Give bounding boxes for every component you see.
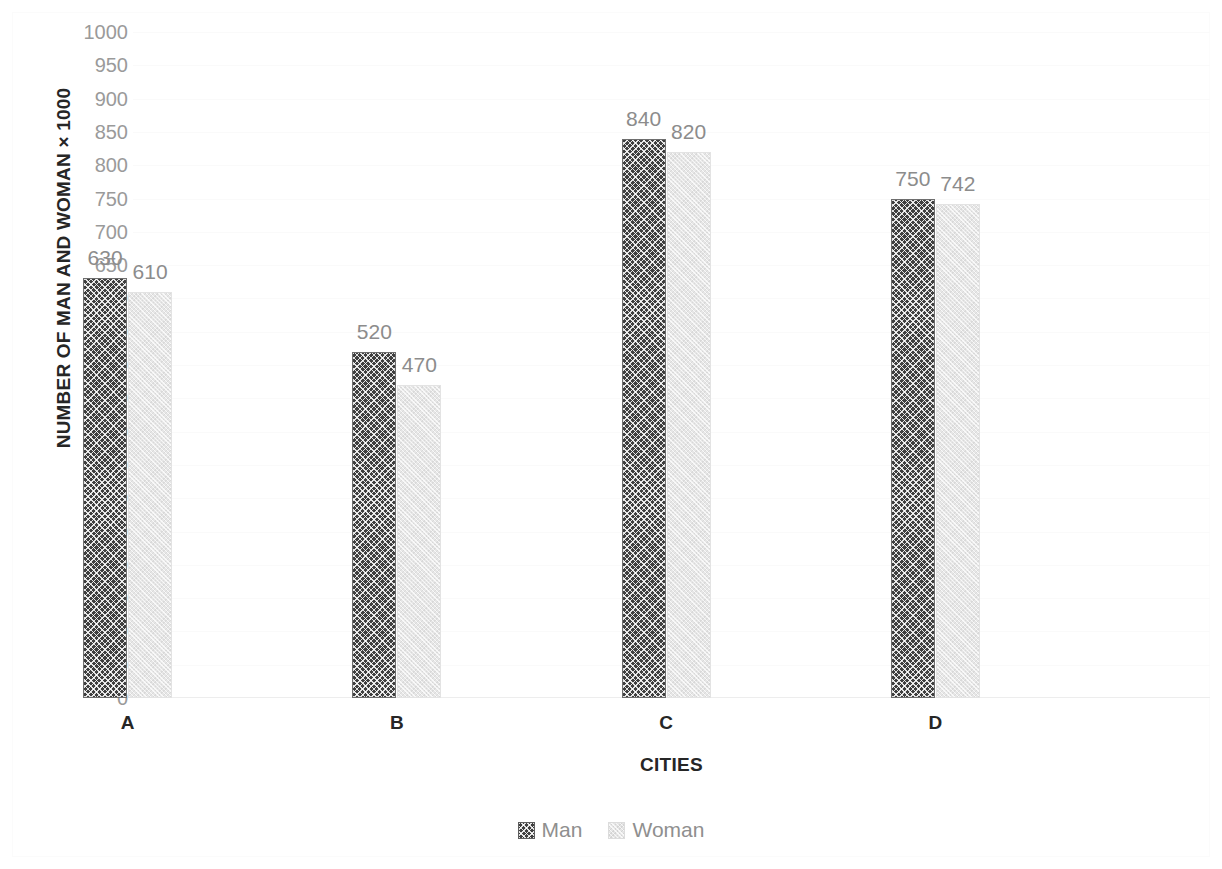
data-label-d-woman: 742 bbox=[913, 172, 1003, 196]
y-axis-tick-label: 850 bbox=[62, 120, 128, 143]
bar-a-woman[interactable] bbox=[128, 292, 172, 698]
y-axis-tick-label: 800 bbox=[62, 154, 128, 177]
data-label-b-woman: 470 bbox=[374, 353, 464, 377]
data-label-c-woman: 820 bbox=[644, 120, 734, 144]
bar-chart: NUMBER OF MAN AND WOMAN × 1000 050100150… bbox=[0, 0, 1222, 869]
x-axis-title: CITIES bbox=[133, 754, 1210, 776]
legend-item-man[interactable]: Man bbox=[518, 818, 583, 842]
bar-a-man[interactable] bbox=[83, 278, 127, 698]
chart-legend: ManWoman bbox=[0, 818, 1222, 842]
legend-label-woman: Woman bbox=[632, 818, 704, 842]
bar-b-woman[interactable] bbox=[397, 385, 441, 698]
legend-label-man: Man bbox=[542, 818, 583, 842]
x-axis-label-d: D bbox=[875, 712, 995, 734]
x-axis-label-b: B bbox=[337, 712, 457, 734]
gridline bbox=[133, 32, 1210, 33]
legend-item-woman[interactable]: Woman bbox=[608, 818, 704, 842]
data-label-a-woman: 610 bbox=[105, 260, 195, 284]
y-axis-tick-label: 900 bbox=[62, 87, 128, 110]
y-axis-tick-label: 750 bbox=[62, 187, 128, 210]
bar-c-man[interactable] bbox=[622, 139, 666, 698]
gridline bbox=[133, 65, 1210, 66]
legend-swatch-woman-icon bbox=[608, 822, 625, 839]
bar-b-man[interactable] bbox=[352, 352, 396, 698]
y-axis-tick-label: 700 bbox=[62, 220, 128, 243]
x-axis-label-c: C bbox=[606, 712, 726, 734]
gridline bbox=[133, 99, 1210, 100]
data-label-b-man: 520 bbox=[329, 320, 419, 344]
legend-swatch-man-icon bbox=[518, 822, 535, 839]
x-axis-label-a: A bbox=[68, 712, 188, 734]
bar-c-woman[interactable] bbox=[667, 152, 711, 698]
plot-area: 630610520470840820750742 bbox=[133, 32, 1210, 698]
y-axis-tick-label: 1000 bbox=[62, 21, 128, 44]
bar-d-man[interactable] bbox=[891, 199, 935, 699]
bar-d-woman[interactable] bbox=[936, 204, 980, 698]
y-axis-tick-label: 950 bbox=[62, 54, 128, 77]
